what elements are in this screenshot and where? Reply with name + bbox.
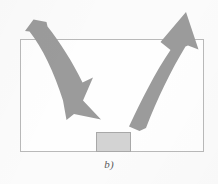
bottom-block [97,133,131,152]
figure-panel-b: b) [0,0,218,184]
figure-caption: b) [0,157,218,171]
